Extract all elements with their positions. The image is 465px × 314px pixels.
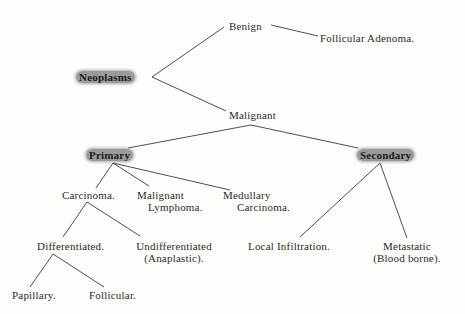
node-secondary: Secondary <box>357 149 414 161</box>
edge-differentiated-follicular <box>53 254 104 287</box>
edge-carcinoma-undifferentiated <box>87 202 140 236</box>
edge-benign-follicular-adenoma <box>271 25 318 36</box>
node-malignant-lymphoma-line2: Lymphoma. <box>137 201 203 213</box>
edge-secondary-local-infiltration <box>300 163 380 237</box>
edge-malignant-secondary <box>251 125 358 148</box>
edge-secondary-metastatic <box>380 163 407 238</box>
node-medullary-carcinoma: Medullary Carcinoma. <box>223 189 290 213</box>
node-metastatic-line2: (Blood borne). <box>366 252 448 264</box>
edge-malignant-primary <box>128 125 251 148</box>
node-primary: Primary <box>86 149 133 161</box>
node-medullary-carcinoma-line1: Medullary <box>223 189 290 201</box>
node-follicular: Follicular. <box>89 289 136 301</box>
node-undifferentiated-line1: Undifferentiated <box>128 240 220 252</box>
node-malignant-lymphoma: Malignant Lymphoma. <box>137 189 203 213</box>
node-malignant: Malignant <box>229 109 276 121</box>
node-differentiated: Differentiated. <box>37 240 104 252</box>
node-neoplasms-label: Neoplasms <box>76 71 135 83</box>
node-carcinoma: Carcinoma. <box>62 189 115 201</box>
edge-primary-lymphoma <box>113 163 149 186</box>
node-primary-label: Primary <box>86 149 133 161</box>
edge-neoplasms-benign <box>152 27 224 77</box>
node-follicular-adenoma: Follicular Adenoma. <box>320 32 414 44</box>
node-undifferentiated-line2: (Anaplastic). <box>128 252 220 264</box>
edge-primary-medullary <box>113 163 230 190</box>
node-medullary-carcinoma-line2: Carcinoma. <box>223 201 290 213</box>
node-local-infiltration: Local Infiltration. <box>248 240 330 252</box>
node-metastatic-line1: Metastatic <box>366 240 448 252</box>
node-papillary: Papillary. <box>12 289 56 301</box>
node-benign: Benign <box>229 20 262 32</box>
node-neoplasms: Neoplasms <box>76 71 135 83</box>
node-metastatic: Metastatic (Blood borne). <box>366 240 448 264</box>
node-undifferentiated: Undifferentiated (Anaplastic). <box>128 240 220 264</box>
node-malignant-lymphoma-line1: Malignant <box>137 189 203 201</box>
edge-neoplasms-malignant <box>152 77 226 111</box>
edge-carcinoma-differentiated <box>63 202 87 237</box>
edge-primary-carcinoma <box>96 163 113 188</box>
neoplasm-classification-diagram: Neoplasms Benign Follicular Adenoma. Mal… <box>0 0 465 314</box>
node-secondary-label: Secondary <box>357 149 414 161</box>
edge-differentiated-papillary <box>30 254 53 287</box>
